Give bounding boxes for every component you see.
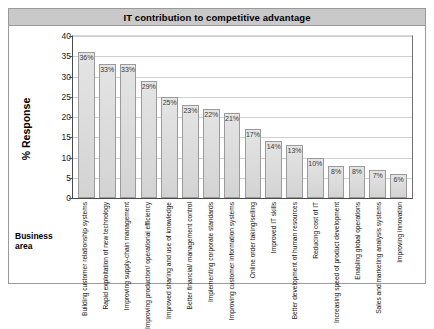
category-label: Improving customer information systems	[228, 202, 235, 320]
bar-series: 36%33%33%29%25%23%22%21%17%14%13%10%8%8%…	[73, 36, 412, 198]
category-label-slot: Improved sharing and use of knowledge	[159, 200, 180, 292]
y-axis-title-text: % Response	[20, 98, 32, 160]
bar-value-label: 14%	[266, 143, 281, 151]
bar-value-label: 10%	[308, 160, 323, 168]
bar-value-label: 21%	[225, 115, 240, 123]
bar-value-label: 23%	[183, 107, 198, 115]
category-label: Rapid exploitation of new technology	[103, 202, 110, 309]
category-label-slot: Improving customer information systems	[222, 200, 243, 292]
category-label-slot: Sales and marketing analysis systems	[368, 200, 389, 292]
category-label-slot: Rapid exploitation of new technology	[96, 200, 117, 292]
category-label: Improving supply-chain management	[124, 202, 131, 310]
category-label: Online order taking/selling	[249, 202, 256, 278]
category-label-slot: Better financial/ management control	[180, 200, 201, 292]
category-label: Sales and marketing analysis systems	[375, 202, 382, 314]
chart-title-band: IT contribution to competitive advantage	[9, 9, 425, 26]
bar-value-label: 22%	[204, 111, 219, 119]
bar[interactable]: 29%	[141, 81, 158, 198]
category-label: Reducing cost of IT	[312, 202, 319, 259]
category-label-slot: Increasing speed of product development	[326, 200, 347, 292]
category-label: Enabling global operations	[354, 202, 361, 280]
bar[interactable]: 6%	[390, 174, 407, 198]
category-label-slot: Enabling global operations	[347, 200, 368, 292]
y-axis-title: % Response	[19, 69, 33, 189]
category-label: Improving production/ operational effici…	[145, 202, 152, 329]
y-axis-tick-label: 5	[45, 173, 71, 183]
bar[interactable]: 8%	[349, 166, 366, 198]
category-label: Building customer relationship systems	[82, 202, 89, 316]
y-axis-tick-label: 25	[45, 92, 71, 102]
y-axis-tick-label: 35	[45, 51, 71, 61]
bar[interactable]: 25%	[161, 97, 178, 198]
bar-slot: 36%	[76, 36, 97, 198]
bar-value-label: 6%	[391, 176, 406, 184]
category-label-slot: Online order taking/selling	[243, 200, 264, 292]
bar[interactable]: 36%	[78, 52, 95, 198]
bar-slot: 25%	[159, 36, 180, 198]
category-label-slot: Implementing corporate standards	[201, 200, 222, 292]
category-label: Improving innovation	[396, 202, 403, 263]
bar[interactable]: 21%	[224, 113, 241, 198]
x-axis-category-labels: Building customer relationship systemsRa…	[72, 200, 413, 292]
y-axis-tick-label: 30	[45, 72, 71, 82]
bar-slot: 8%	[347, 36, 368, 198]
category-label-slot: Reducing cost of IT	[305, 200, 326, 292]
bar-value-label: 33%	[100, 66, 115, 74]
bar-slot: 33%	[97, 36, 118, 198]
category-label-slot: Better development of human resources	[284, 200, 305, 292]
category-label: Better development of human resources	[291, 202, 298, 319]
category-label-slot: Improving innovation	[389, 200, 410, 292]
bar-value-label: 7%	[370, 172, 385, 180]
bar[interactable]: 13%	[286, 145, 303, 198]
bar-slot: 17%	[243, 36, 264, 198]
y-axis-tick-mark	[69, 198, 73, 199]
y-axis-tick-label: 0	[45, 193, 71, 203]
bar-value-label: 29%	[142, 83, 157, 91]
bar-slot: 23%	[180, 36, 201, 198]
category-label-slot: Improving supply-chain management	[117, 200, 138, 292]
bar[interactable]: 14%	[265, 141, 282, 198]
y-axis-tick-label: 40	[45, 31, 71, 41]
bar-slot: 21%	[222, 36, 243, 198]
y-axis-tick-label: 20	[45, 112, 71, 122]
bar-slot: 22%	[201, 36, 222, 198]
category-label: Improved sharing and use of knowledge	[166, 202, 173, 319]
bar-slot: 13%	[284, 36, 305, 198]
chart-figure: IT contribution to competitive advantage…	[8, 8, 426, 284]
category-label-slot: Improving production/ operational effici…	[138, 200, 159, 292]
bar-slot: 14%	[263, 36, 284, 198]
bar[interactable]: 22%	[203, 109, 220, 198]
category-label: Better financial/ management control	[186, 202, 193, 309]
bar-slot: 10%	[305, 36, 326, 198]
bar[interactable]: 33%	[99, 64, 116, 198]
bar-slot: 8%	[326, 36, 347, 198]
bar-value-label: 33%	[121, 66, 136, 74]
x-axis-title: Business area	[15, 231, 67, 251]
bar-slot: 6%	[388, 36, 409, 198]
bar-value-label: 36%	[79, 54, 94, 62]
bar[interactable]: 23%	[182, 105, 199, 198]
bar-slot: 7%	[367, 36, 388, 198]
bar[interactable]: 7%	[369, 170, 386, 198]
y-axis-tick-label: 15	[45, 132, 71, 142]
bar-value-label: 8%	[350, 168, 365, 176]
y-axis-tick-label: 10	[45, 153, 71, 163]
bar[interactable]: 33%	[120, 64, 137, 198]
bar[interactable]: 17%	[245, 129, 262, 198]
plot-area: 4035302520151050 36%33%33%29%25%23%22%21…	[72, 35, 413, 199]
bar-value-label: 8%	[329, 168, 344, 176]
bar-value-label: 25%	[162, 99, 177, 107]
category-label: Increasing speed of product development	[333, 202, 340, 323]
category-label-slot: Building customer relationship systems	[75, 200, 96, 292]
chart-title: IT contribution to competitive advantage	[123, 12, 310, 23]
bar-slot: 33%	[118, 36, 139, 198]
bar-slot: 29%	[138, 36, 159, 198]
bar-value-label: 17%	[246, 131, 261, 139]
bar[interactable]: 10%	[307, 158, 324, 199]
category-label: Implementing corporate standards	[207, 202, 214, 302]
category-label: Improved IT skills	[270, 202, 277, 253]
bar[interactable]: 8%	[328, 166, 345, 198]
category-label-slot: Improved IT skills	[263, 200, 284, 292]
bar-value-label: 13%	[287, 147, 302, 155]
